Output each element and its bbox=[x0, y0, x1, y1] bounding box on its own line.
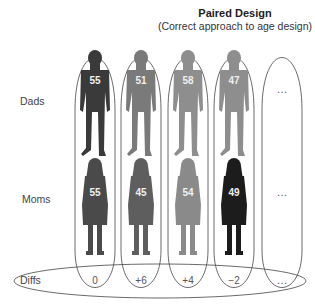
mom-figure-1: 55 bbox=[82, 158, 108, 255]
diffs-group-ellipse bbox=[14, 264, 306, 298]
dad-figure-3: 58 bbox=[173, 50, 203, 156]
dad-age-2: 51 bbox=[135, 75, 147, 86]
mom-figure-3: 54 bbox=[175, 158, 201, 255]
diff-value-2: +6 bbox=[135, 275, 147, 286]
ellipsis-dads: … bbox=[277, 83, 288, 95]
diff-value-3: +4 bbox=[182, 275, 194, 286]
dad-figure-4: 47 bbox=[219, 50, 249, 156]
ellipsis-moms: … bbox=[277, 186, 288, 198]
dad-age-1: 55 bbox=[89, 75, 101, 86]
dad-age-3: 58 bbox=[182, 75, 194, 86]
mom-age-2: 45 bbox=[135, 187, 147, 198]
paired-design-diagram: 55 55 0 51 45 +6 58 54 +4 47 49 −2 … … … bbox=[0, 0, 315, 304]
mom-age-4: 49 bbox=[228, 187, 240, 198]
diff-value-4: −2 bbox=[228, 275, 240, 286]
dad-figure-2: 51 bbox=[126, 50, 156, 156]
dad-age-4: 47 bbox=[228, 75, 240, 86]
dad-figure-1: 55 bbox=[80, 50, 110, 156]
diff-value-1: 0 bbox=[92, 275, 98, 286]
mom-age-3: 54 bbox=[182, 187, 194, 198]
ellipsis-diffs: … bbox=[277, 274, 288, 286]
mom-figure-2: 45 bbox=[128, 158, 154, 255]
mom-figure-4: 49 bbox=[221, 158, 247, 255]
mom-age-1: 55 bbox=[89, 187, 101, 198]
